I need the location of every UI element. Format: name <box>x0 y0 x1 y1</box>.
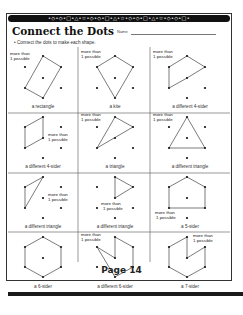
hint-one-possible: 1 possible <box>193 238 213 243</box>
hint-one-possible: 1 possible <box>48 137 68 142</box>
cell-label: a kite <box>110 104 121 109</box>
cell-5-sider[interactable]: more than 1 possible a 5-sider <box>155 176 206 229</box>
cell-different-triangle-1[interactable]: more than 1 possible a different triangl… <box>153 112 209 169</box>
cell-different-6-sider[interactable]: more than 1 possible a different 6-sider <box>81 232 134 289</box>
hint-one-possible: 1 possible <box>10 56 30 61</box>
cell-label: a different 4-sider <box>172 104 208 109</box>
cell-triangle[interactable]: more than 1 possible a triangle <box>81 112 134 169</box>
cell-different-triangle-3[interactable]: more than 1 possible a different triangl… <box>96 176 134 229</box>
cell-6-sider[interactable]: a 6-sider <box>24 236 62 289</box>
cell-label: a different triangle <box>97 224 134 229</box>
hint-one-possible: 1 possible <box>156 215 176 220</box>
cell-label: a 5-sider <box>181 224 199 229</box>
cell-different-4-sider-2[interactable]: more than 1 possible a different 4-sider <box>24 116 68 169</box>
hint-one-possible: 1 possible <box>153 117 173 122</box>
cell-label: a rectangle <box>32 104 55 109</box>
hint-one-possible: 1 possible <box>103 206 123 211</box>
cell-label: a different 6-sider <box>97 284 133 289</box>
cell-kite[interactable]: more than 1 possible a kite <box>81 49 134 109</box>
cell-7-sider[interactable]: more than 1 possible a 7-sider <box>168 233 213 289</box>
hint-one-possible: 1 possible <box>81 237 101 242</box>
hint-one-possible: 1 possible <box>81 117 101 122</box>
cell-label: a different triangle <box>25 224 62 229</box>
cell-label: a different triangle <box>172 164 209 169</box>
next-page-edge <box>8 292 243 296</box>
cell-different-triangle-2[interactable]: more than 1 possible a different triangl… <box>24 176 68 229</box>
page-number: Page 14 <box>0 265 243 275</box>
cell-label: a 6-sider <box>34 284 52 289</box>
cell-label: a different 4-sider <box>25 164 61 169</box>
hint-one-possible: 1 possible <box>48 197 68 202</box>
hint-one-possible: 1 possible <box>153 54 173 59</box>
cell-rectangle[interactable]: more than 1 possible a rectangle <box>10 51 62 109</box>
hint-one-possible: 1 possible <box>81 54 101 59</box>
cell-different-4-sider-1[interactable]: more than 1 possible a different 4-sider <box>153 49 208 109</box>
cell-label: a triangle <box>106 164 125 169</box>
cell-label: a 7-sider <box>181 284 199 289</box>
grid-dividers <box>8 47 230 262</box>
